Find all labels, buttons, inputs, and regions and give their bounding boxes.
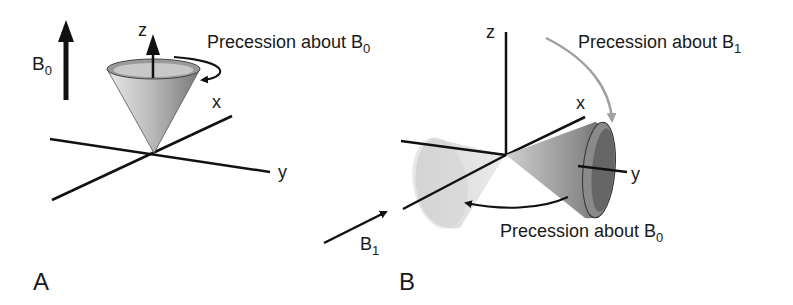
precession-b0-label: Precession about B0 xyxy=(207,32,370,56)
axis-y-label: y xyxy=(278,162,287,182)
precession-b0-label: Precession about B0 xyxy=(500,221,663,245)
axis-y-label: y xyxy=(631,164,640,184)
b0-field-arrow-icon xyxy=(58,20,74,100)
axis-z-label: z xyxy=(486,22,495,42)
b1-label: B1 xyxy=(360,234,379,258)
b0-label: B0 xyxy=(32,53,52,78)
axis-x-label: x xyxy=(212,92,221,112)
precession-diagram: B0 x y z Precession about B0 A xyxy=(0,0,793,305)
axis-x-label: x xyxy=(576,93,585,113)
b1-field-arrow-icon xyxy=(324,212,386,243)
panel-a: B0 x y z Precession about B0 A xyxy=(32,20,370,295)
precession-b0-arrow-icon xyxy=(466,197,568,208)
panel-a-label: A xyxy=(33,268,49,295)
axis-z-label: z xyxy=(138,20,147,40)
panel-b-label: B xyxy=(399,268,415,295)
precession-b1-label: Precession about B1 xyxy=(578,32,741,56)
panel-b: z x y Precession about B1 Precession abo… xyxy=(324,22,741,295)
